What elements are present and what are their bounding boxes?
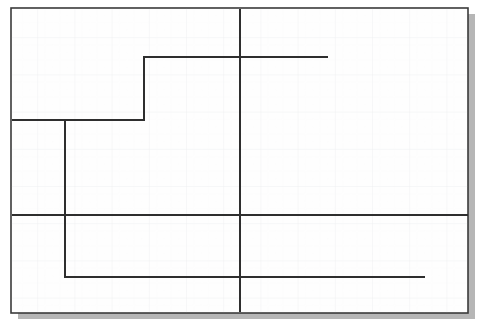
scanned-drawing-svg [0, 0, 484, 334]
drawing-canvas [0, 0, 484, 334]
